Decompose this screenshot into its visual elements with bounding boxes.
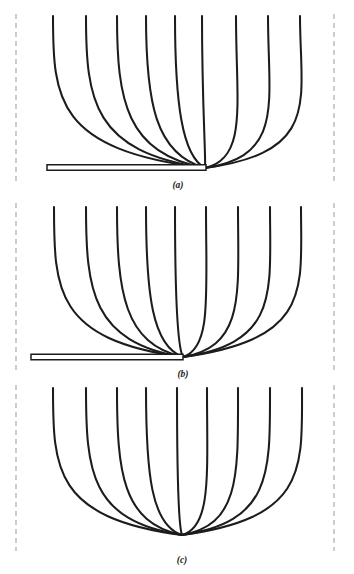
field-line bbox=[53, 16, 205, 168]
field-line bbox=[202, 16, 205, 168]
panel-label-b: (b) bbox=[177, 369, 188, 380]
field-line bbox=[205, 16, 302, 168]
field-line bbox=[54, 207, 183, 357]
field-line-figure: (a)(b)(c) bbox=[0, 0, 354, 574]
panel-b: (b) bbox=[16, 203, 334, 380]
field-line bbox=[117, 207, 183, 357]
field-line bbox=[183, 207, 207, 357]
figure-container: (a)(b)(c) bbox=[0, 0, 354, 574]
field-line bbox=[177, 388, 182, 535]
field-line bbox=[182, 388, 270, 535]
field-line bbox=[182, 388, 207, 535]
panel-c: (c) bbox=[16, 385, 334, 566]
panels-group: (a)(b)(c) bbox=[16, 14, 334, 566]
field-line bbox=[175, 207, 183, 357]
field-line bbox=[183, 207, 270, 357]
field-line bbox=[182, 388, 238, 535]
panel-label-c: (c) bbox=[177, 555, 188, 566]
conductor-plate bbox=[31, 354, 183, 360]
field-line bbox=[146, 207, 183, 357]
field-line bbox=[175, 16, 205, 168]
panel-label-a: (a) bbox=[172, 180, 183, 191]
conductor-plate bbox=[47, 165, 206, 171]
field-line bbox=[183, 207, 238, 357]
panel-a: (a) bbox=[16, 14, 334, 191]
field-line bbox=[205, 16, 238, 168]
